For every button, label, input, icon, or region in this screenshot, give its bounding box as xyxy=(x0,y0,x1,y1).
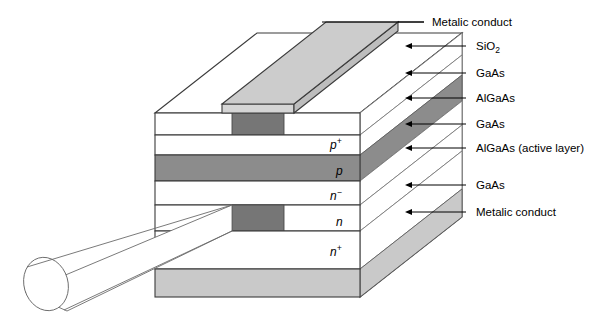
front-layer-metal-bottom xyxy=(155,269,360,297)
callout-label-sio2: SiO2 xyxy=(476,40,500,55)
callout-label-gaas-1: GaAs xyxy=(476,67,505,79)
top-metalic-strip-front-edge xyxy=(222,104,294,113)
diagram-canvas: p+ p n− n n+ Metalic conduct Si xyxy=(0,0,597,327)
callout-label-algaas-1: AlGaAs xyxy=(476,92,515,104)
active-stripe-window xyxy=(232,205,284,231)
sio2-contact-window xyxy=(232,113,284,135)
callout-label-gaas-3: GaAs xyxy=(476,179,505,191)
callout-label-metalic-conduct-bottom: Metalic conduct xyxy=(476,206,557,218)
layer-label-p: p xyxy=(335,164,343,178)
callout-label-algaas-active: AlGaAs (active layer) xyxy=(476,142,584,154)
callout-label-metalic-conduct-top: Metalic conduct xyxy=(432,16,513,28)
callout-label-gaas-2: GaAs xyxy=(476,118,505,130)
front-layer-algaas-p xyxy=(155,155,360,181)
laser-diode-structure-diagram: p+ p n− n n+ Metalic conduct Si xyxy=(0,0,597,327)
layer-label-n: n xyxy=(336,215,343,229)
